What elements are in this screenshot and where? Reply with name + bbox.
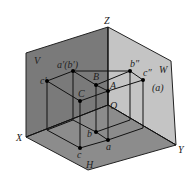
label-o: O [110,100,117,111]
label-c-prime: c′ [40,75,47,86]
label-b-double-prime: b″ [130,58,140,69]
point-b [94,130,98,134]
label-z: Z [104,15,110,26]
label-A: A [109,80,117,91]
label-c: c [77,149,82,160]
point-c-double-prime [141,78,145,82]
label-B: B [93,71,99,82]
point-B [94,83,98,87]
projection-diagram: Z X Y O V W H a′(b′) c′ B A C b″ c″ (a) … [0,0,195,188]
point-C [78,99,82,103]
label-y: Y [178,144,185,155]
label-a: a [106,141,111,152]
label-c-double-prime: c″ [143,67,152,78]
label-a-paren: (a) [152,82,164,94]
point-b-double-prime [128,69,132,73]
label-C: C [78,88,85,99]
label-a-prime-b-prime: a′(b′) [57,59,79,71]
label-h-plane: H [85,159,94,170]
label-b: b [87,128,92,139]
label-x: X [15,132,23,143]
